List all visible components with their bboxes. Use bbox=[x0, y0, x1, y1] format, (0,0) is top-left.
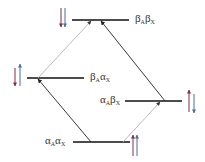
level-label-aa: αAαX bbox=[45, 134, 65, 147]
level-label-ab: αAβX bbox=[100, 93, 120, 106]
transition-aa-ab bbox=[123, 102, 160, 142]
spin-arrows-bb bbox=[61, 8, 65, 27]
spin-arrows-ab bbox=[189, 90, 194, 113]
transition-ab-bb bbox=[101, 21, 165, 101]
level-label-bb: βAβX bbox=[135, 12, 155, 25]
spin-arrows-ba bbox=[15, 64, 20, 86]
level-label-ba: βAαX bbox=[90, 70, 110, 83]
spin-arrows-aa bbox=[133, 135, 137, 156]
transition-ba-bb bbox=[38, 21, 91, 78]
transition-aa-ba bbox=[38, 79, 91, 142]
